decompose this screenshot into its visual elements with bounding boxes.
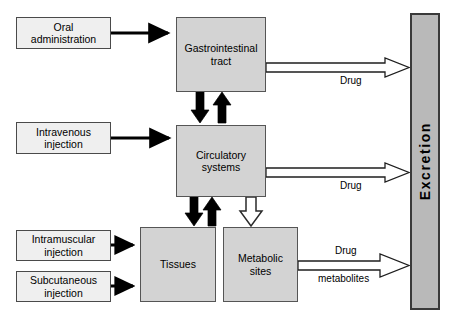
compartment-label-gi-line1: Gastrointestinal [185,42,258,54]
source-box-intramuscular-injection[interactable]: Intramuscular injection [16,230,111,261]
compartment-box-tissues[interactable]: Tissues [140,227,216,302]
compartment-label-gi-line2: tract [211,55,231,67]
compartment-label-circulatory-line1: Circulatory [196,149,246,161]
arrow-gi-to-excretion-drug [266,58,409,77]
source-label-oral-line1: Oral [54,21,74,33]
edge-label-metabolic-drug: Drug [335,245,357,256]
source-label-intravenous-line2: injection [44,138,83,150]
source-box-subcutaneous-injection[interactable]: Subcutaneous injection [16,271,111,302]
excretion-label: Excretion [417,122,434,200]
compartment-label-metabolic-line2: sites [250,265,272,277]
arrow-gi-to-circulatory-down [191,92,209,123]
pharmacokinetics-diagram: Oral administration Intravenous injectio… [0,0,451,322]
source-label-intramuscular-line1: Intramuscular [32,233,96,245]
compartment-box-circulatory-systems[interactable]: Circulatory systems [176,125,266,197]
compartment-label-tissues-line1: Tissues [160,258,196,270]
source-label-subcutaneous-line2: injection [44,287,83,299]
edge-label-gi-drug: Drug [340,75,362,86]
source-box-intravenous-injection[interactable]: Intravenous injection [16,122,111,154]
arrow-circulatory-to-metabolic-hollow [240,197,262,226]
source-label-intravenous-line1: Intravenous [36,126,91,138]
source-label-subcutaneous-line1: Subcutaneous [30,274,97,286]
compartment-box-gastrointestinal-tract[interactable]: Gastrointestinal tract [176,17,266,92]
arrow-circulatory-to-tissues-down [185,197,203,226]
source-label-intramuscular-line2: injection [44,246,83,258]
compartment-label-circulatory-line2: systems [202,161,241,173]
compartment-box-metabolic-sites[interactable]: Metabolic sites [223,227,298,302]
arrow-tissues-to-circulatory-up [203,197,221,226]
edge-label-metabolic-metabolites: metabolites [318,273,369,284]
arrow-circulatory-to-gi-up [213,92,231,123]
arrow-circulatory-to-excretion-drug [266,163,409,182]
source-label-oral-line2: administration [31,33,96,45]
source-box-oral-administration[interactable]: Oral administration [16,17,111,49]
compartment-label-metabolic-line1: Metabolic [238,252,283,264]
edge-label-circulatory-drug: Drug [340,180,362,191]
excretion-bar[interactable]: Excretion [410,13,440,310]
